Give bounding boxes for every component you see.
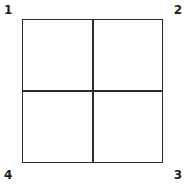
quadrant-bottom-right [93, 91, 164, 163]
corner-label-top-right: 2 [174, 4, 182, 16]
diagram-canvas: 1 2 3 4 [0, 0, 186, 186]
corner-label-top-left: 1 [4, 4, 12, 16]
quadrant-bottom-left [22, 91, 93, 163]
corner-label-bottom-left: 4 [4, 169, 12, 181]
quadrant-top-right [93, 19, 164, 91]
quadrant-top-left [22, 19, 93, 91]
corner-label-bottom-right: 3 [174, 169, 182, 181]
square-figure [22, 19, 163, 163]
